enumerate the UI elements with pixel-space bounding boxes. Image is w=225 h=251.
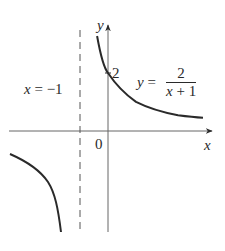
equation-lhs: y [137, 74, 144, 90]
equation-label: y = [137, 75, 156, 90]
x-axis-label: x [204, 138, 211, 153]
denominator-rest: + 1 [173, 83, 196, 99]
function-graph [0, 0, 225, 251]
asymptote-var: x [24, 81, 31, 97]
y-intercept-label: 2 [112, 66, 120, 81]
asymptote-label: x = −1 [24, 82, 63, 97]
denominator-var: x [166, 83, 173, 99]
y-axis-label: y [97, 18, 104, 33]
equation-equals: = [144, 74, 156, 90]
fraction-numerator: 2 [175, 66, 187, 82]
fraction-denominator: x + 1 [166, 83, 196, 99]
equation-fraction: 2 x + 1 [166, 66, 196, 99]
asymptote-value: = −1 [31, 81, 63, 97]
origin-label: 0 [95, 137, 103, 152]
curve-left-branch [10, 154, 61, 232]
